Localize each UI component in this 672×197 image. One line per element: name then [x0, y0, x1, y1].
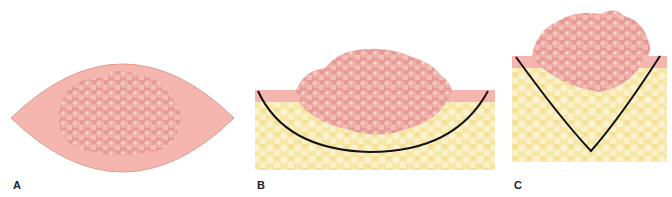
panel-label-a: A	[13, 179, 21, 191]
panel-label-b: B	[257, 179, 265, 191]
panel-c	[512, 10, 667, 162]
panel-label-c: C	[514, 179, 522, 191]
panel-b	[255, 49, 495, 170]
panel-a	[11, 64, 234, 172]
figure-canvas	[0, 0, 672, 197]
